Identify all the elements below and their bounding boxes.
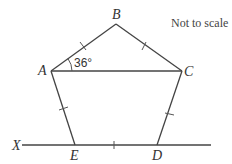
angle-label: 36° [74, 56, 92, 70]
vertex-label-d: D [151, 148, 162, 163]
edge-ae [51, 71, 75, 145]
edge-bc [116, 24, 182, 71]
angle-arc [68, 59, 72, 71]
tick-cd [165, 113, 174, 115]
not-to-scale-note: Not to scale [171, 16, 228, 30]
pentagon-diagram: 36° B A C E D X Not to scale [0, 0, 232, 164]
line-label-x: X [11, 138, 21, 153]
edge-cd [157, 71, 182, 145]
vertex-label-c: C [184, 64, 194, 79]
vertex-label-a: A [37, 63, 47, 78]
vertex-label-e: E [69, 148, 79, 163]
vertex-label-b: B [112, 7, 121, 22]
